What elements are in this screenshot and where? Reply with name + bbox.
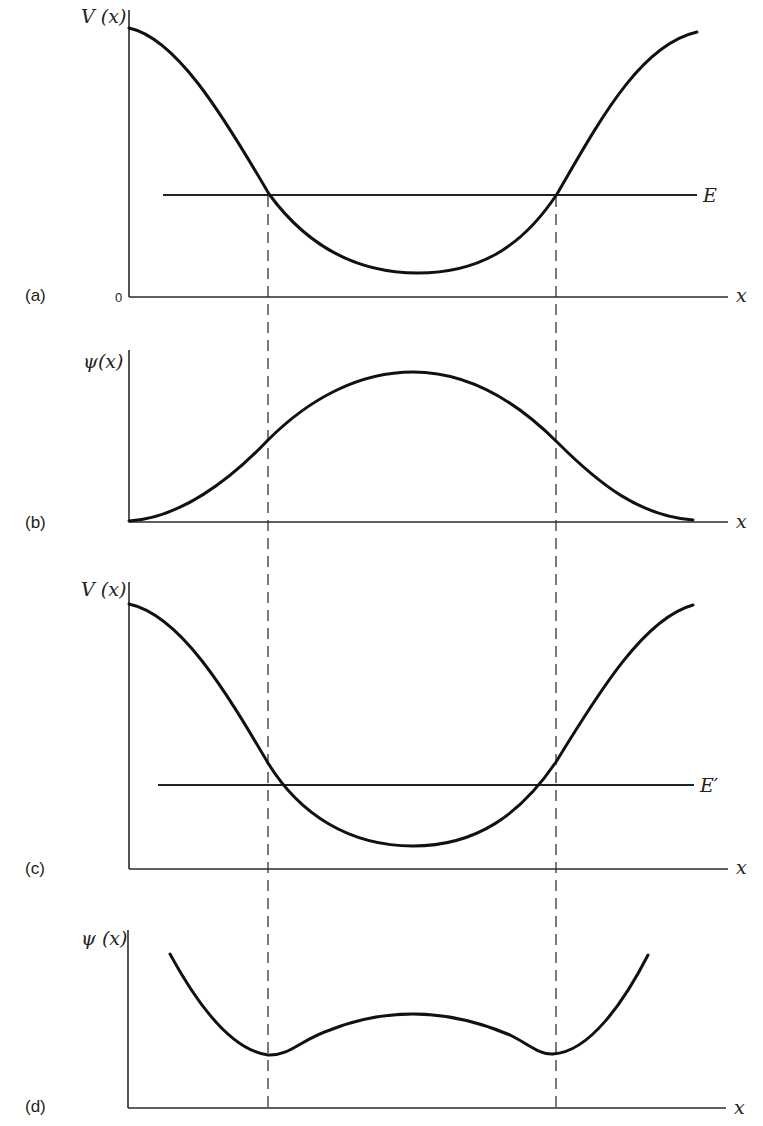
turning-point-guides [268, 196, 556, 1112]
wavefunction-curve-b [129, 372, 693, 521]
panel-a-y-axis-label: V (x) [81, 5, 126, 27]
panel-a-x-axis-label: x [736, 284, 747, 306]
panel-c-x-axis-label: x [736, 856, 747, 878]
panel-b-y-axis-label: ψ(x) [83, 350, 123, 372]
panel-d-x-axis-label: x [734, 1096, 745, 1118]
potential-curve-c [129, 604, 693, 846]
panel-c: (c) V (x) x E′ [25, 578, 747, 878]
energy-level-e-label: E [702, 184, 717, 206]
panel-d: (d) ψ (x) x [25, 927, 745, 1118]
panel-a-label: (a) [25, 286, 46, 305]
panel-a: (a) V (x) 0 x E [25, 5, 747, 306]
panel-b: (b) ψ(x) x [25, 350, 747, 532]
panel-a-origin-label: 0 [115, 290, 122, 305]
panel-b-label: (b) [25, 513, 46, 532]
panel-d-label: (d) [25, 1097, 46, 1116]
potential-curve-a [129, 28, 697, 273]
panel-d-y-axis-label: ψ (x) [81, 927, 127, 949]
wavefunction-curve-d [170, 954, 648, 1055]
energy-level-e-prime-label: E′ [699, 774, 719, 796]
panel-b-x-axis-label: x [736, 510, 747, 532]
quantum-well-figure: (a) V (x) 0 x E (b) ψ(x) x (c) V (x) x E… [0, 0, 763, 1126]
panel-c-y-axis-label: V (x) [81, 578, 126, 600]
panel-c-label: (c) [25, 859, 45, 878]
